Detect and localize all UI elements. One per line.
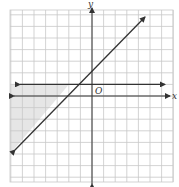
- coordinate-plane: y x O: [0, 0, 179, 187]
- x-axis-label: x: [172, 91, 177, 101]
- y-axis-label: y: [87, 0, 94, 9]
- origin-label: O: [95, 86, 103, 96]
